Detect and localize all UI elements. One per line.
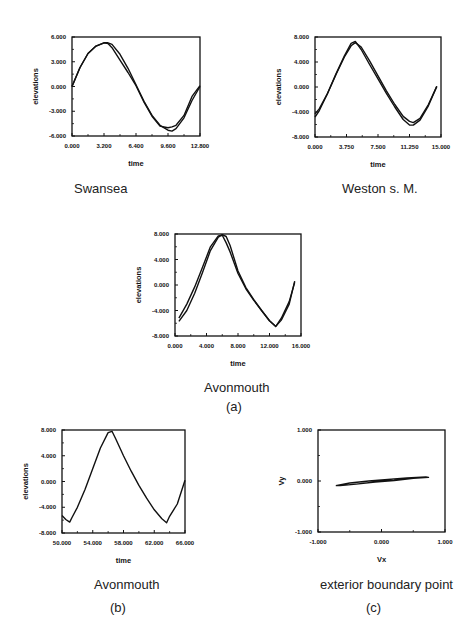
- chart-exterior-boundary-point-plot: -1.0000.0001.0001.0000.000-1.000VxVy: [238, 400, 476, 641]
- x-tick-label: 62.000: [145, 540, 164, 546]
- part-label-c: (c): [366, 600, 381, 615]
- y-tick-label: -8.000: [39, 530, 57, 536]
- y-tick-label: 4.000: [41, 453, 57, 459]
- y-axis-label: Vy: [277, 476, 286, 486]
- x-tick-label: 66.000: [176, 540, 195, 546]
- x-tick-label: 0.000: [64, 143, 80, 149]
- chart-swansea: 0.0003.2006.4009.60012.8006.0003.0000.00…: [0, 0, 238, 200]
- x-tick-label: 58.000: [114, 540, 133, 546]
- y-tick-label: -6.000: [49, 133, 67, 139]
- x-tick-label: 1.000: [437, 539, 453, 545]
- x-tick-label: 11.250: [400, 144, 419, 150]
- series-line: [72, 43, 200, 128]
- y-tick-label: 4.000: [294, 59, 310, 65]
- series-line: [62, 431, 185, 522]
- y-tick-label: -4.000: [152, 308, 170, 314]
- caption-avonmouth-a: Avonmouth: [204, 380, 270, 395]
- y-axis-label: elevations: [31, 68, 40, 105]
- x-tick-label: 9.600: [160, 143, 176, 149]
- y-axis-label: elevations: [274, 69, 283, 106]
- series-line: [336, 477, 429, 486]
- y-tick-label: -1.000: [295, 529, 313, 535]
- series-line: [179, 235, 295, 326]
- x-tick-label: 4.000: [199, 343, 215, 349]
- x-tick-label: 12.800: [191, 143, 210, 149]
- chart-weston: 0.0003.7507.50011.25015.0008.0004.0000.0…: [238, 0, 476, 200]
- y-tick-label: 4.000: [154, 257, 170, 263]
- series-line: [179, 235, 295, 327]
- x-tick-label: 0.000: [307, 144, 323, 150]
- x-axis-label: time: [128, 159, 143, 168]
- x-tick-label: 54.000: [84, 540, 103, 546]
- x-tick-label: 0.000: [374, 539, 390, 545]
- y-tick-label: -4.000: [292, 109, 310, 115]
- x-tick-label: 3.750: [339, 144, 355, 150]
- y-tick-label: -8.000: [292, 134, 310, 140]
- caption-weston: Weston s. M.: [342, 181, 418, 196]
- x-tick-label: 6.400: [128, 143, 144, 149]
- y-tick-label: -3.000: [49, 108, 67, 114]
- plot-frame: [315, 37, 441, 137]
- y-tick-label: 0.000: [51, 84, 67, 90]
- y-tick-label: 0.000: [154, 282, 170, 288]
- y-tick-label: 0.000: [41, 479, 57, 485]
- part-label-b: (b): [110, 600, 126, 615]
- y-tick-label: 8.000: [154, 231, 170, 237]
- chart-avonmouth-a-plot: 0.0004.0008.00012.00016.0008.0004.0000.0…: [120, 200, 360, 400]
- chart-avonmouth-a: 0.0004.0008.00012.00016.0008.0004.0000.0…: [120, 200, 360, 400]
- chart-swansea-plot: 0.0003.2006.4009.60012.8006.0003.0000.00…: [0, 0, 238, 200]
- y-tick-label: 0.000: [297, 478, 313, 484]
- x-axis-label: Vx: [377, 555, 387, 564]
- y-tick-label: 0.000: [294, 84, 310, 90]
- chart-exterior-boundary-point: -1.0000.0001.0001.0000.000-1.000VxVy ext…: [238, 400, 476, 641]
- y-tick-label: 3.000: [51, 59, 67, 65]
- y-axis-label: elevations: [134, 267, 143, 304]
- x-tick-label: 12.000: [260, 343, 279, 349]
- x-tick-label: 15.000: [432, 144, 451, 150]
- series-line: [315, 41, 437, 125]
- y-tick-label: 6.000: [51, 34, 67, 40]
- series-line: [315, 43, 437, 123]
- y-tick-label: 8.000: [294, 34, 310, 40]
- y-tick-label: 1.000: [297, 427, 313, 433]
- y-tick-label: 8.000: [41, 427, 57, 433]
- x-tick-label: 50.000: [53, 540, 72, 546]
- x-tick-label: 7.500: [370, 144, 386, 150]
- x-tick-label: 16.000: [292, 343, 311, 349]
- chart-weston-plot: 0.0003.7507.50011.25015.0008.0004.0000.0…: [238, 0, 476, 200]
- y-tick-label: -8.000: [152, 333, 170, 339]
- y-axis-label: elevations: [21, 463, 30, 500]
- caption-swansea: Swansea: [74, 181, 127, 196]
- x-axis-label: time: [230, 359, 245, 368]
- x-tick-label: -1.000: [309, 539, 327, 545]
- plot-frame: [175, 234, 301, 336]
- caption-exterior-boundary-point: exterior boundary point: [320, 577, 453, 592]
- x-tick-label: 8.000: [230, 343, 246, 349]
- x-tick-label: 0.000: [167, 343, 183, 349]
- x-tick-label: 3.200: [96, 143, 112, 149]
- chart-avonmouth-b: 50.00054.00058.00062.00066.0008.0004.000…: [0, 400, 238, 641]
- x-axis-label: time: [116, 556, 131, 565]
- y-tick-label: -4.000: [39, 504, 57, 510]
- plot-frame: [62, 430, 185, 533]
- caption-avonmouth-b: Avonmouth: [94, 577, 160, 592]
- x-axis-label: time: [370, 160, 385, 169]
